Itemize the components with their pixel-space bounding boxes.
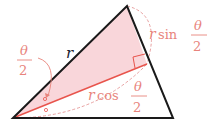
- opposite-var: r: [149, 26, 157, 42]
- opposite-func: sin: [158, 27, 178, 42]
- adjacent-var: r: [88, 87, 96, 103]
- opposite-side-label: r sin θ 2: [149, 18, 207, 54]
- triangle-diagram: r θ 2 r sin θ 2 r cos θ 2: [0, 0, 213, 126]
- opposite-numerator: θ: [194, 18, 202, 33]
- half-angle-numerator: θ: [20, 43, 28, 58]
- half-angle-label: θ 2: [17, 43, 32, 78]
- adjacent-numerator: θ: [134, 79, 142, 94]
- angle-mark-lower: [44, 108, 47, 111]
- adjacent-func: cos: [97, 88, 119, 103]
- adjacent-denominator: 2: [133, 100, 141, 115]
- opposite-denominator: 2: [193, 39, 201, 54]
- shaded-half-triangle: [13, 6, 147, 118]
- side-r-label: r: [66, 44, 74, 62]
- half-angle-denominator: 2: [19, 63, 27, 78]
